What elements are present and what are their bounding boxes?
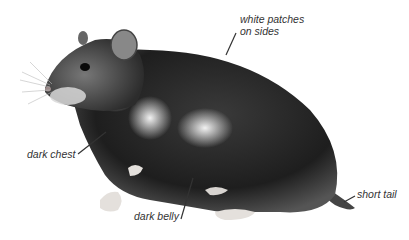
white-patch-side <box>177 108 233 148</box>
label-dark-belly: dark belly <box>134 210 179 222</box>
label-white-patches: white patches on sides <box>240 13 304 37</box>
hamster-illustration <box>0 0 409 240</box>
front-paw <box>100 192 122 212</box>
eye <box>80 63 90 71</box>
hind-paw <box>215 209 255 220</box>
nose <box>45 87 51 92</box>
label-short-tail: short tail <box>357 188 397 200</box>
ear-front <box>111 30 137 60</box>
label-dark-chest: dark chest <box>27 148 75 160</box>
leader-short-tail <box>344 196 355 202</box>
ear-back <box>78 31 88 45</box>
leader-white-patches <box>226 33 236 55</box>
